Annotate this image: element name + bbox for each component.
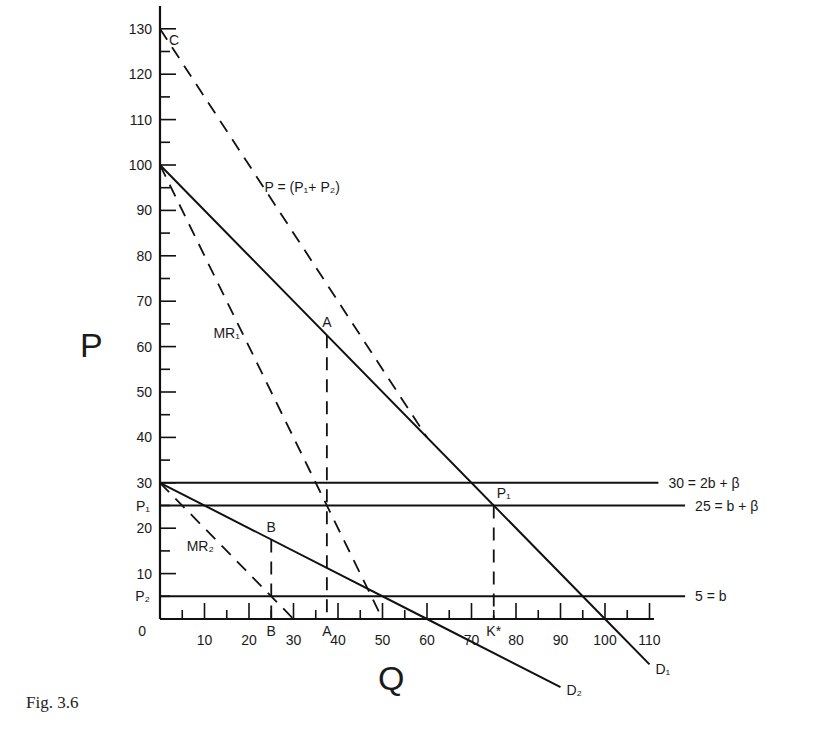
figure-caption: Fig. 3.6 xyxy=(26,693,78,713)
y-tick-label: 30 xyxy=(136,475,152,491)
point-label: P₁ xyxy=(497,485,511,501)
y-tick-label: 100 xyxy=(129,157,153,173)
series-d1 xyxy=(160,165,650,664)
y-tick-label: 90 xyxy=(136,202,152,218)
series-label: D₂ xyxy=(567,682,583,698)
chart-lines xyxy=(160,29,685,687)
series-label: 30 = 2b + β xyxy=(668,475,739,491)
point-label: A xyxy=(322,314,332,330)
series-label: 25 = b + β xyxy=(695,498,758,514)
series-label: 5 = b xyxy=(695,588,727,604)
series-label: P = (P₁+ P₂) xyxy=(265,179,340,195)
series-p-p1-p2- xyxy=(160,29,427,438)
x-tick-label: 110 xyxy=(638,632,661,648)
origin-label: 0 xyxy=(138,623,146,639)
point-label: K* xyxy=(486,623,501,639)
y-tick-label: 10 xyxy=(136,566,152,582)
x-axis-label: Q xyxy=(378,659,404,697)
x-tick-label: 40 xyxy=(330,632,346,648)
x-tick-label: 100 xyxy=(593,632,617,648)
chart-annotations: D₁D₂MR₁MR₂P = (P₁+ P₂)30 = 2b + β25 = b … xyxy=(135,32,758,698)
y-tick-label: 110 xyxy=(130,112,153,128)
x-tick-label: 30 xyxy=(286,632,302,648)
point-label: A xyxy=(322,623,332,639)
point-label: B xyxy=(267,519,276,535)
y-tick-label: 80 xyxy=(136,248,152,264)
series-mr2 xyxy=(160,483,294,619)
y-tick-label: 70 xyxy=(136,293,152,309)
series-label: MR₁ xyxy=(213,325,240,341)
point-label: B xyxy=(267,623,276,639)
x-tick-label: 90 xyxy=(553,632,569,648)
y-tick-label: 120 xyxy=(129,66,153,82)
x-tick-label: 50 xyxy=(375,632,391,648)
x-tick-label: 10 xyxy=(197,632,213,648)
x-tick-label: 20 xyxy=(241,632,257,648)
y-tick-label: 20 xyxy=(136,520,152,536)
y-tick-label: 50 xyxy=(136,384,152,400)
chart-svg: 1020304050607080901001101201300102030405… xyxy=(0,0,815,755)
y-tick-label: 130 xyxy=(129,21,153,37)
x-tick-label: 60 xyxy=(419,632,435,648)
point-label: P₁ xyxy=(136,498,150,514)
point-label: C xyxy=(169,32,179,48)
y-tick-label: 40 xyxy=(136,429,152,445)
y-axis-label: P xyxy=(80,326,103,364)
series-label: D₁ xyxy=(656,661,671,677)
point-label: P₂ xyxy=(135,588,150,604)
series-label: MR₂ xyxy=(187,538,214,554)
x-tick-label: 80 xyxy=(508,632,524,648)
y-tick-label: 60 xyxy=(136,339,152,355)
